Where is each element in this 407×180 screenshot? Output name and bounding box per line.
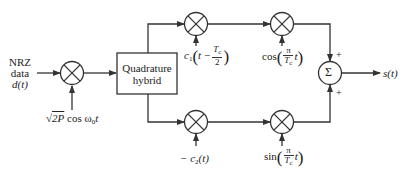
plus-sign-bottom: + — [336, 88, 342, 98]
input-label: NRZ data d(t) — [6, 57, 34, 90]
carrier-label: √2P cos ω0t — [46, 112, 98, 128]
pi-over-tc-fraction: πTc — [284, 146, 294, 168]
sigma-symbol: Σ — [325, 66, 332, 78]
bottom-code-multiplier-icon — [185, 111, 208, 134]
close-paren: ) — [298, 48, 304, 67]
close-paren: ) — [223, 47, 229, 66]
bottom-code-label: − c2(t) — [180, 152, 209, 168]
output-label: s(t) — [383, 67, 398, 79]
top-code-label: c1(t −Tc2) — [184, 45, 229, 67]
sin-shaping-label: sin(πTct) — [264, 146, 303, 168]
carrier-power: 2P — [52, 112, 64, 124]
tc-over-2-fraction: Tc2 — [212, 45, 222, 67]
sin-func: sin — [264, 150, 277, 162]
frac-den: 2 — [212, 58, 222, 67]
carrier-var: t — [95, 112, 98, 124]
plus-sign-top: + — [336, 50, 342, 60]
open-paren: ( — [277, 48, 283, 67]
open-paren: ( — [277, 148, 283, 167]
cos-shaping-label: cos(πTct) — [262, 46, 303, 68]
hybrid-top-path — [148, 24, 184, 53]
hybrid-label-line2: hybrid — [117, 74, 177, 86]
top-shaping-multiplier-icon — [271, 13, 294, 36]
bottom-to-sum-path — [294, 85, 330, 122]
input-multiplier-icon — [61, 62, 84, 85]
frac-den-sub: c — [290, 159, 293, 167]
input-label-line3: d(t) — [6, 79, 34, 90]
c1-arg: t − — [198, 49, 211, 61]
frac-den-sub: c — [289, 59, 292, 67]
carrier-func: cos ω — [67, 112, 92, 124]
close-paren: ) — [298, 148, 304, 167]
cos-func: cos — [262, 50, 277, 62]
frac-num-sub: c — [218, 48, 221, 56]
pi-over-tc-fraction: πTc — [283, 46, 293, 68]
hybrid-bottom-path — [148, 94, 184, 122]
hybrid-label: Quadrature hybrid — [117, 62, 177, 86]
bottom-shaping-multiplier-icon — [271, 111, 294, 134]
hybrid-label-line1: Quadrature — [117, 62, 177, 74]
top-code-multiplier-icon — [185, 13, 208, 36]
c2-arg: (t) — [199, 152, 209, 164]
c2-symbol: − c — [180, 152, 195, 164]
